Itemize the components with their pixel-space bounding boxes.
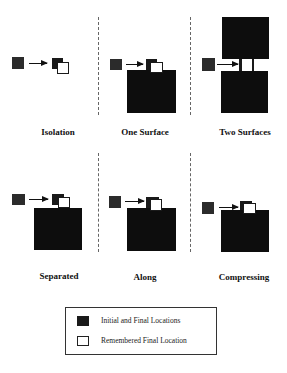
remembered-location-square: [58, 197, 70, 208]
remembered-location-square: [150, 62, 163, 73]
surface-block: [34, 208, 82, 250]
upper-surface-block: [222, 17, 269, 59]
remembered-location-square: [150, 199, 162, 211]
initial-location-square: [109, 196, 121, 208]
initial-location-square: [110, 59, 122, 70]
outlined-square-icon: [77, 336, 89, 346]
arrow-icon: [29, 199, 48, 200]
divider-top-right: [190, 17, 191, 115]
filled-square-icon: [77, 316, 89, 326]
divider-bottom-left: [98, 153, 99, 252]
remembered-location-square: [57, 62, 69, 74]
initial-location-square: [202, 202, 214, 214]
panel-label: One Surface: [121, 127, 169, 137]
arrow-icon: [217, 64, 238, 65]
initial-location-square: [12, 194, 25, 205]
arrow-icon: [126, 64, 143, 65]
divider-bottom-right: [190, 153, 191, 252]
arrow-icon: [29, 63, 47, 64]
panel-label: Isolation: [41, 127, 75, 137]
surface-block: [127, 208, 176, 251]
panel-label: Separated: [40, 271, 79, 281]
surface-block: [221, 210, 269, 252]
panel-label: Along: [133, 272, 156, 282]
initial-location-square: [12, 57, 24, 69]
arrow-icon: [125, 201, 144, 202]
divider-top-left: [98, 17, 99, 115]
surface-block: [127, 70, 176, 113]
legend-label-remembered: Remembered Final Location: [101, 336, 187, 345]
legend-label-initial-final: Initial and Final Locations: [101, 316, 180, 325]
remembered-location-square: [243, 203, 256, 214]
legend: Initial and Final Locations Remembered F…: [65, 307, 217, 355]
initial-location-square: [202, 58, 215, 71]
lower-surface-block: [221, 71, 268, 113]
arrow-icon: [219, 207, 238, 208]
panel-label: Compressing: [219, 272, 269, 282]
panel-label: Two Surfaces: [219, 127, 271, 137]
remembered-location-square: [242, 59, 252, 71]
